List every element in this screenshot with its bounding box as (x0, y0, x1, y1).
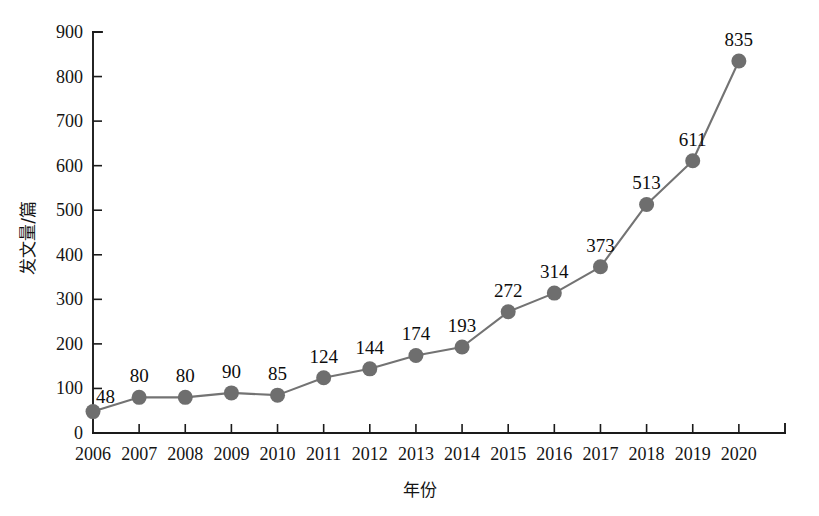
y-tick-label: 200 (56, 334, 83, 354)
data-point-marker (408, 348, 423, 363)
data-point-marker (270, 388, 285, 403)
data-point-label: 314 (540, 261, 569, 282)
data-point-label: 513 (632, 172, 661, 193)
data-point-label: 373 (586, 235, 615, 256)
data-point-marker (593, 259, 608, 274)
data-point-label: 80 (130, 365, 149, 386)
data-point-marker (547, 286, 562, 301)
data-point-label: 193 (448, 315, 477, 336)
data-point-label: 611 (679, 129, 707, 150)
y-tick-label: 500 (56, 200, 83, 220)
y-tick-label: 300 (56, 289, 83, 309)
data-point-marker (132, 390, 147, 405)
y-tick-label: 700 (56, 111, 83, 131)
y-tick-label: 100 (56, 378, 83, 398)
data-point-marker (455, 340, 470, 355)
x-tick-label: 2015 (490, 444, 526, 464)
line-chart: 0100200300400500600700800900 20062007200… (0, 0, 819, 516)
x-tick-label: 2020 (721, 444, 757, 464)
x-axis-title: 年份 (403, 480, 437, 500)
y-tick-label: 900 (56, 22, 83, 42)
x-tick-label: 2008 (167, 444, 203, 464)
x-tick-label: 2006 (75, 444, 111, 464)
x-tick-label: 2016 (536, 444, 572, 464)
y-axis-title: 发文量/篇 (18, 201, 38, 275)
data-point-label: 835 (725, 29, 754, 50)
y-tick-label: 0 (74, 423, 83, 443)
x-tick-label: 2011 (306, 444, 341, 464)
data-point-marker (639, 197, 654, 212)
x-tick-label: 2013 (398, 444, 434, 464)
x-tick-label: 2018 (629, 444, 665, 464)
data-point-label: 272 (494, 280, 523, 301)
x-axis-tick-labels: 2006200720082009201020112012201320142015… (75, 444, 757, 464)
x-tick-label: 2007 (121, 444, 157, 464)
chart-canvas: 0100200300400500600700800900 20062007200… (0, 0, 819, 516)
data-point-label: 85 (268, 363, 287, 384)
data-point-marker (316, 370, 331, 385)
data-point-label: 90 (222, 361, 241, 382)
data-point-label: 124 (309, 346, 338, 367)
data-point-label: 48 (96, 386, 115, 407)
y-tick-label: 800 (56, 67, 83, 87)
chart-background (0, 0, 819, 516)
data-point-label: 144 (356, 337, 385, 358)
x-tick-label: 2009 (213, 444, 249, 464)
x-tick-label: 2010 (260, 444, 296, 464)
x-tick-label: 2014 (444, 444, 480, 464)
data-point-marker (224, 385, 239, 400)
data-point-label: 80 (176, 365, 195, 386)
data-point-marker (362, 361, 377, 376)
x-tick-label: 2019 (675, 444, 711, 464)
data-point-label: 174 (402, 323, 431, 344)
x-tick-label: 2017 (582, 444, 618, 464)
y-tick-label: 400 (56, 245, 83, 265)
data-point-marker (685, 153, 700, 168)
data-point-marker (501, 304, 516, 319)
data-point-marker (178, 390, 193, 405)
data-point-marker (731, 53, 746, 68)
y-tick-label: 600 (56, 156, 83, 176)
x-tick-label: 2012 (352, 444, 388, 464)
